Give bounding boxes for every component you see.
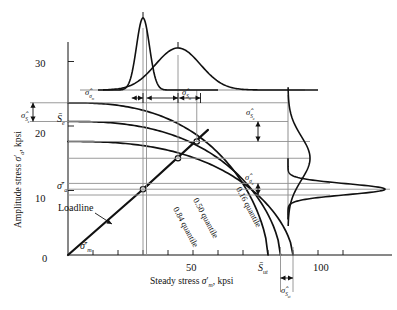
- sigma-hat-sigma-a-label: σ̂σa: [245, 172, 253, 186]
- sigma-hat-Se-label: σ̂Se: [21, 110, 29, 124]
- sigma-hat-Sm-label: σ̂Sm: [182, 87, 191, 101]
- x-axis-title: Steady stress σ′m, kpsi: [150, 276, 233, 288]
- dim-sigma-hat-Sa: [255, 121, 260, 141]
- dim-sigma-hat-Se: [30, 103, 35, 122]
- x-tick-label-100: 100: [313, 262, 329, 273]
- S-bar-e-label: S̄e: [57, 113, 65, 126]
- dim-sigma-hat-Sut: [281, 275, 294, 280]
- y-axis-title: Amplitude stress σ′a, kpsi: [13, 131, 25, 228]
- figure-canvas: Amplitude stress σ′a, kpsi Steady stress…: [0, 0, 397, 310]
- y-tick-label-20: 20: [35, 128, 46, 139]
- sigma-bar-m-label: σ̄′m: [80, 240, 92, 253]
- fatigue-diagram-svg: [0, 0, 397, 310]
- y-tick-label-30: 30: [35, 58, 46, 69]
- sigma-hat-Sa-label: σ̂Sa: [246, 107, 254, 121]
- sigma-hat-sigma-m-label: σ̂σm: [85, 87, 94, 101]
- sigma-hat-Sut-label: σ̂Sut: [281, 285, 290, 299]
- dim-sigma-hat-Sm-left: [147, 95, 178, 100]
- x-tick-label-50: 50: [186, 262, 197, 273]
- y-tick-label-0: 0: [42, 253, 47, 264]
- S-bar-ut-label: S̄ut: [258, 262, 268, 275]
- top-narrow-pdf: [98, 18, 218, 90]
- sigma-bar-a-label: σ̄′a: [57, 180, 67, 193]
- right-broad-pdf: [288, 87, 310, 226]
- dim-sigma-hat-sigma-m: [132, 95, 143, 100]
- loadline-label: Loadline: [58, 202, 94, 213]
- y-tick-label-10: 10: [35, 193, 46, 204]
